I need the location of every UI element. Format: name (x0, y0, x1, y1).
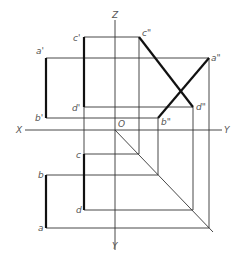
label-d: d (76, 205, 82, 215)
label-b-dprime: b" (161, 117, 171, 127)
edge-c-dprime-d-dprime (139, 37, 193, 107)
label-c-dprime: c" (142, 28, 151, 38)
x-axis-label: X (15, 125, 23, 135)
label-b: b (38, 170, 44, 180)
label-a: a (38, 223, 44, 233)
z-axis-label: Z (111, 10, 119, 20)
label-c-prime: c' (73, 33, 80, 43)
label-c: c (76, 150, 81, 160)
origin-label: O (118, 119, 125, 129)
45-degree-miter-line (115, 130, 213, 232)
projection-diagram: Z X Y Y O c' a' d' b' c" a" d" b" c b d … (0, 0, 243, 259)
label-d-dprime: d" (196, 102, 206, 112)
label-b-prime: b' (35, 113, 43, 123)
y-bottom-axis-label: Y (112, 241, 119, 251)
label-d-prime: d' (72, 103, 80, 113)
label-a-prime: a' (36, 46, 44, 56)
y-right-axis-label: Y (224, 125, 231, 135)
label-a-dprime: a" (211, 53, 221, 63)
